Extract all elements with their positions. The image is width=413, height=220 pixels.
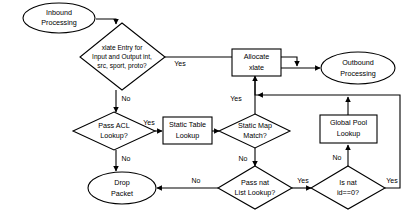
node-static-map-match: Static Map Match? — [219, 114, 290, 148]
node-xlate-entry: xlate Entry for Input and Output int, sr… — [80, 23, 165, 90]
allocate-xlate-label-line2: xlate — [249, 63, 264, 72]
node-outbound-processing: Outbound Processing — [321, 52, 395, 84]
outbound-processing-label-line1: Outbound — [342, 58, 374, 67]
edge-label-nat-list-yes: Yes — [297, 177, 309, 184]
flowchart-canvas: Inbound Processing xlate Entry for Input… — [0, 0, 413, 220]
inbound-processing-label-line1: Inbound — [46, 8, 72, 17]
edge-label-acl-no: No — [122, 155, 131, 162]
global-pool-lookup-label-line1: Global Pool — [330, 118, 368, 127]
static-map-match-label-line1: Static Map — [238, 121, 272, 130]
is-nat-id-zero-label-line1: Is nat — [339, 178, 357, 187]
node-allocate-xlate: Allocate xlate — [232, 49, 281, 76]
allocate-xlate-label-line1: Allocate — [244, 52, 270, 61]
pass-nat-list-lookup-label-line2: List Lookup? — [235, 188, 276, 197]
static-table-lookup-label-line1: Static Table — [169, 120, 206, 129]
static-map-match-label-line2: Match? — [243, 131, 267, 140]
flowchart-svg: Inbound Processing xlate Entry for Input… — [0, 0, 413, 220]
edge-label-acl-yes: Yes — [143, 119, 155, 126]
global-pool-lookup-label-line2: Lookup — [337, 129, 361, 138]
node-inbound-processing: Inbound Processing — [23, 3, 95, 33]
edge-bus-to-allocate — [255, 78, 258, 95]
pass-acl-lookup-label-line2: Lookup? — [100, 131, 128, 140]
pass-nat-list-lookup-label-line1: Pass nat — [241, 178, 269, 187]
edge-label-static-map-yes: Yes — [230, 95, 242, 102]
node-is-nat-id-zero: Is nat id==0? — [311, 166, 385, 209]
node-global-pool-lookup: Global Pool Lookup — [320, 115, 377, 143]
node-static-table-lookup: Static Table Lookup — [163, 117, 212, 144]
drop-packet-label-line2: Packet — [111, 189, 133, 198]
drop-packet-label-line1: Drop — [114, 178, 130, 187]
edge-inbound-to-xlate — [96, 19, 116, 24]
edge-label-nat-id-yes: Yes — [386, 177, 398, 184]
xlate-entry-label-line2: Input and Output int, — [92, 53, 152, 61]
node-pass-acl-lookup: Pass ACL Lookup? — [73, 112, 155, 150]
edge-label-nat-id-no: No — [333, 154, 342, 161]
node-drop-packet: Drop Packet — [88, 172, 156, 204]
pass-acl-lookup-label-line1: Pass ACL — [98, 121, 130, 130]
static-table-lookup-label-line2: Lookup — [176, 131, 200, 140]
xlate-entry-label-line1: xlate Entry for — [102, 44, 143, 52]
edge-label-xlate-yes: Yes — [174, 60, 186, 67]
edge-label-nat-list-no: No — [192, 177, 201, 184]
xlate-entry-label-line3: src, sport, proto? — [97, 62, 147, 70]
edge-label-xlate-no: No — [122, 95, 131, 102]
edge-label-static-map-no: No — [239, 155, 248, 162]
node-pass-nat-list-lookup: Pass nat List Lookup? — [218, 166, 292, 209]
is-nat-id-zero-label-line2: id==0? — [337, 188, 359, 197]
outbound-processing-label-line2: Processing — [340, 69, 376, 78]
inbound-processing-label-line2: Processing — [41, 18, 77, 27]
